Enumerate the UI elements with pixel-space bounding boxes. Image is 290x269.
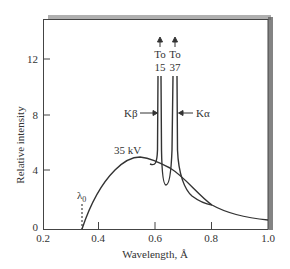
peak-arrow-kalpha xyxy=(173,37,178,47)
y-axis-label: Relative intensity xyxy=(14,106,26,184)
x-tick-label: 0.6 xyxy=(148,232,162,244)
characteristic-lines-curve xyxy=(150,76,212,205)
x-tick-label: 0.8 xyxy=(204,232,218,244)
frame-shadow-right xyxy=(268,17,273,230)
kbeta-to-label: To xyxy=(154,48,166,60)
kalpha-peak-value: 37 xyxy=(170,61,182,73)
peak-arrow-kbeta xyxy=(158,37,163,47)
y-tick-label: 8 xyxy=(33,109,39,121)
kalpha-to-label: To xyxy=(169,48,181,60)
x-tick-label: 0.2 xyxy=(36,232,50,244)
kbeta-pointer xyxy=(140,111,158,116)
x-ticks xyxy=(99,222,212,229)
kalpha-label: Kα xyxy=(196,107,210,119)
kbeta-peak-value: 15 xyxy=(155,61,167,73)
voltage-label: 35 kV xyxy=(114,144,141,156)
kalpha-pointer xyxy=(179,111,194,116)
xray-spectrum-chart: 12 8 4 0 0.2 0.4 0.6 0.8 1.0 Wavelength,… xyxy=(0,0,290,269)
x-axis-label: Wavelength, Å xyxy=(122,248,188,260)
y-tick-label: 4 xyxy=(33,164,39,176)
y-ticks xyxy=(43,59,50,170)
kbeta-label: Kβ xyxy=(124,107,138,119)
x-tick-label: 0.4 xyxy=(91,232,105,244)
continuous-spectrum-curve xyxy=(82,157,268,229)
y-tick-label: 12 xyxy=(27,53,38,65)
x-tick-label: 1.0 xyxy=(261,232,275,244)
lambda0-label: λ0 xyxy=(77,189,86,204)
